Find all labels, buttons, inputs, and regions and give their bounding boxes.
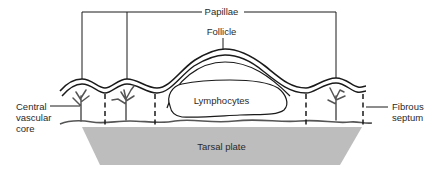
lymphocytes-label: Lymphocytes [0,95,439,106]
central-vascular-core-label: Central vascular core [16,101,51,134]
papillae-bracket [82,12,336,79]
diagram-canvas: Papillae Follicle Lymphocytes Central va… [0,0,439,173]
follicle-label: Follicle [0,26,439,37]
basement-line [60,120,372,124]
fibrous-septum-label: Fibrous septum [392,101,424,123]
papillae-label: Papillae [0,6,439,17]
tarsal-plate-label: Tarsal plate [0,141,439,152]
